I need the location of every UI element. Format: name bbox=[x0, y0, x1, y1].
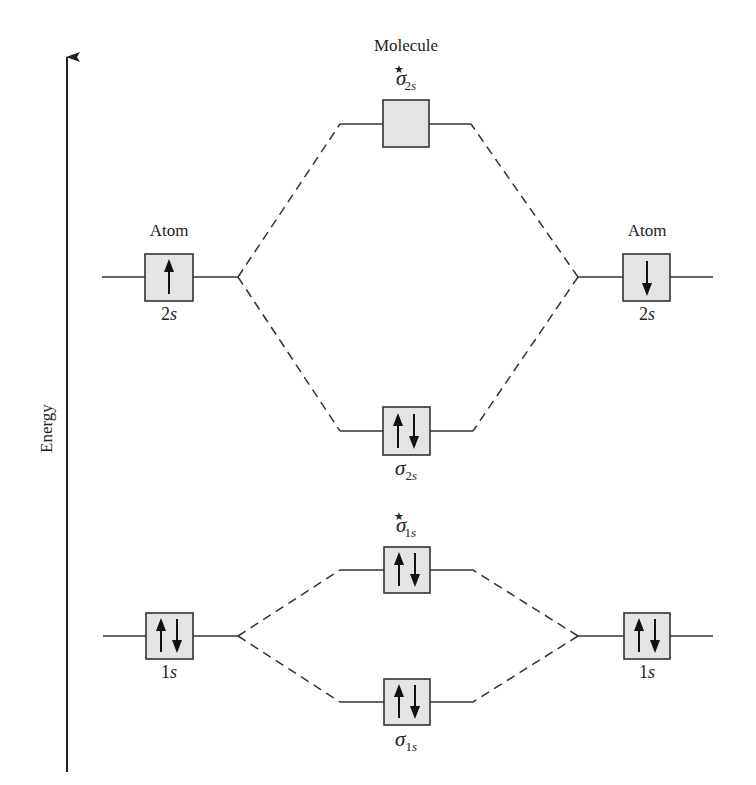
orbital-box-sigma-1s bbox=[384, 679, 430, 725]
orbital-box-atom-left-1s bbox=[146, 613, 193, 659]
antibonding-star-icon: ★ bbox=[394, 63, 404, 75]
correlation-line-left2s-to-sigma2s-star bbox=[238, 124, 340, 277]
orbital-box-sigma-2s-star bbox=[383, 100, 429, 147]
correlation-line-left2s-to-sigma2s bbox=[238, 277, 340, 431]
orbital-box-atom-right-1s bbox=[624, 613, 670, 659]
correlation-line-right2s-to-sigma2s-star bbox=[471, 124, 578, 277]
orbital-label-sigma-2s: σ2s bbox=[395, 456, 417, 484]
orbital-label-atom-right-1s: 1s bbox=[639, 662, 655, 683]
energy-axis-label: Energy bbox=[37, 404, 57, 453]
atom-right-label: Atom bbox=[628, 221, 667, 241]
orbital-label-sigma-1s-star: σ★1s bbox=[396, 513, 416, 541]
correlation-line-right1s-to-sigma1s-star bbox=[473, 570, 578, 636]
orbital-box-sigma-1s-star bbox=[384, 547, 430, 593]
orbital-label-sigma-1s: σ1s bbox=[395, 727, 417, 755]
molecule-header-label: Molecule bbox=[374, 36, 438, 56]
orbital-label-atom-left-1s: 1s bbox=[161, 662, 177, 683]
orbital-label-sigma-2s-star: σ★2s bbox=[396, 66, 416, 94]
correlation-line-right2s-to-sigma2s bbox=[473, 277, 578, 431]
correlation-line-left1s-to-sigma1s-star bbox=[238, 570, 340, 636]
antibonding-star-icon: ★ bbox=[394, 510, 404, 522]
correlation-line-left1s-to-sigma1s bbox=[238, 636, 340, 702]
orbital-label-atom-left-2s: 2s bbox=[161, 304, 177, 325]
orbital-box-sigma-2s bbox=[383, 407, 430, 455]
atom-left-label: Atom bbox=[150, 221, 189, 241]
correlation-line-right1s-to-sigma1s bbox=[473, 636, 578, 702]
orbital-label-atom-right-2s: 2s bbox=[639, 304, 655, 325]
